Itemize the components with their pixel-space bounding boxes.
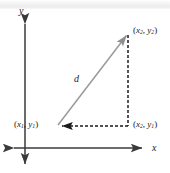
x-axis-label: x — [152, 143, 156, 153]
y-axis-label: y — [19, 6, 23, 16]
point-label-p1: (x1, y1) — [14, 120, 38, 129]
paren-close: ) — [154, 119, 157, 129]
point-label-corner: (x2, y1) — [133, 120, 157, 129]
hypotenuse-segment — [58, 36, 127, 126]
paren-close: ) — [154, 25, 157, 35]
paren-close: ) — [35, 119, 38, 129]
distance-formula-figure: y x d (x2, y2) (x1, y1) (x2, y1) — [0, 0, 170, 173]
distance-label: d — [74, 74, 79, 84]
point-label-p2: (x2, y2) — [133, 26, 157, 35]
